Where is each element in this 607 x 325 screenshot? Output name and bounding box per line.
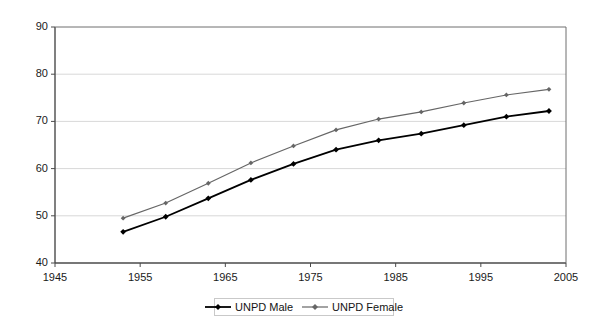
legend-label: UNPD Male (235, 301, 293, 313)
legend-item[interactable]: UNPD Female (302, 301, 403, 313)
legend-marker-icon (302, 302, 328, 312)
y-axis-tick-label: 40 (14, 256, 48, 268)
x-axis-tick-label: 1975 (286, 271, 336, 283)
line-chart: 405060708090 194519551965197519851995200… (0, 0, 607, 325)
legend-item[interactable]: UNPD Male (205, 301, 293, 313)
x-axis-tick-label: 1965 (200, 271, 250, 283)
x-axis-tick-label: 1985 (371, 271, 421, 283)
legend-marker-icon (205, 302, 231, 312)
x-axis-tick-label: 1945 (30, 271, 80, 283)
y-axis-tick-label: 90 (14, 20, 48, 32)
legend-label: UNPD Female (332, 301, 403, 313)
y-axis-tick-label: 70 (14, 114, 48, 126)
y-axis-tick-label: 50 (14, 209, 48, 221)
x-axis-tick-label: 1955 (115, 271, 165, 283)
y-axis-tick-label: 80 (14, 67, 48, 79)
x-axis-tick-label: 1995 (456, 271, 506, 283)
x-axis-tick-label: 2005 (541, 271, 591, 283)
plot-background (55, 27, 566, 263)
chart-legend: UNPD MaleUNPD Female (214, 298, 394, 316)
y-axis-tick-label: 60 (14, 162, 48, 174)
